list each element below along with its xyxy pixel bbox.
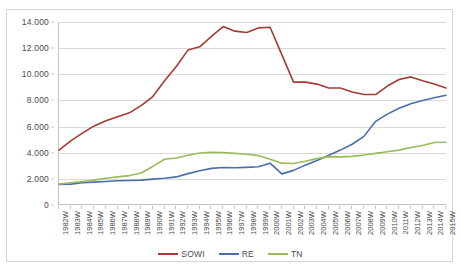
y-tick-label: 8.000 bbox=[27, 95, 49, 105]
y-tick-mark bbox=[51, 126, 54, 127]
legend-item-re[interactable]: RE bbox=[219, 249, 254, 259]
x-tick-label: 1997W bbox=[237, 211, 246, 235]
x-tick-label: 1987W bbox=[120, 211, 129, 235]
y-tick-label: 4.000 bbox=[27, 148, 49, 158]
y-axis: 14.00012.00010.0008.0006.0004.0002.0000 bbox=[7, 22, 54, 205]
y-tick-label: 12.000 bbox=[22, 43, 49, 53]
x-tick-label: 2004W bbox=[319, 211, 328, 235]
x-tick-label: 1995W bbox=[214, 211, 223, 235]
x-tick-label: 2011W bbox=[401, 211, 410, 235]
x-tick-mark bbox=[81, 206, 82, 209]
x-tick-label: 1983W bbox=[73, 211, 82, 235]
x-tick-label: 2014W bbox=[436, 211, 445, 235]
x-tick-mark bbox=[257, 206, 258, 209]
x-tick-label: 1996W bbox=[225, 211, 234, 235]
x-tick-mark bbox=[199, 206, 200, 209]
series-line-re bbox=[59, 95, 446, 184]
chart-legend: SOWIRETN bbox=[7, 249, 454, 259]
x-tick-label: 1993W bbox=[190, 211, 199, 235]
series-line-sowi bbox=[59, 27, 446, 151]
x-tick-mark bbox=[175, 206, 176, 209]
x-tick-mark bbox=[398, 206, 399, 209]
series-line-tn bbox=[59, 142, 446, 184]
x-tick-label: 1990W bbox=[155, 211, 164, 235]
y-tick-mark bbox=[51, 74, 54, 75]
x-tick-label: 1998W bbox=[249, 211, 258, 235]
x-tick-label: 2001W bbox=[284, 211, 293, 235]
legend-item-sowi[interactable]: SOWI bbox=[158, 249, 204, 259]
x-tick-label: 2009W bbox=[378, 211, 387, 235]
x-tick-label: 2002W bbox=[296, 211, 305, 235]
x-tick-mark bbox=[117, 206, 118, 209]
x-tick-label: 2008W bbox=[366, 211, 375, 235]
legend-swatch-icon bbox=[158, 253, 178, 255]
x-tick-mark bbox=[422, 206, 423, 209]
x-tick-mark bbox=[316, 206, 317, 209]
x-tick-mark bbox=[222, 206, 223, 209]
x-tick-label: 1992W bbox=[178, 211, 187, 235]
y-tick-mark bbox=[51, 205, 54, 206]
y-tick-mark bbox=[51, 48, 54, 49]
x-tick-label: 1991W bbox=[167, 211, 176, 235]
x-tick-mark bbox=[128, 206, 129, 209]
x-tick-label: 2015W bbox=[448, 211, 457, 235]
x-tick-mark bbox=[375, 206, 376, 209]
series-layer bbox=[59, 22, 447, 205]
x-tick-mark bbox=[152, 206, 153, 209]
x-tick-mark bbox=[386, 206, 387, 209]
x-tick-mark bbox=[410, 206, 411, 209]
x-tick-mark bbox=[58, 206, 59, 209]
x-tick-mark bbox=[246, 206, 247, 209]
x-tick-mark bbox=[328, 206, 329, 209]
x-tick-label: 1988W bbox=[132, 211, 141, 235]
x-tick-mark bbox=[70, 206, 71, 209]
x-tick-label: 2003W bbox=[307, 211, 316, 235]
legend-label: RE bbox=[242, 249, 254, 259]
y-tick-mark bbox=[51, 22, 54, 23]
y-tick-label: 2.000 bbox=[27, 174, 49, 184]
legend-item-tn[interactable]: TN bbox=[268, 249, 303, 259]
x-tick-label: 2000W bbox=[272, 211, 281, 235]
x-tick-mark bbox=[210, 206, 211, 209]
y-tick-label: 6.000 bbox=[27, 122, 49, 132]
x-tick-label: 1985W bbox=[96, 211, 105, 235]
x-tick-mark bbox=[363, 206, 364, 209]
y-tick-mark bbox=[51, 152, 54, 153]
x-tick-label: 2010W bbox=[390, 211, 399, 235]
x-axis: 1982W1983W1984W1985W1986W1987W1988W1989W… bbox=[58, 206, 446, 252]
plot-area bbox=[58, 22, 446, 205]
x-tick-mark bbox=[140, 206, 141, 209]
legend-label: SOWI bbox=[181, 249, 204, 259]
x-tick-mark bbox=[187, 206, 188, 209]
x-tick-label: 2005W bbox=[331, 211, 340, 235]
x-tick-mark bbox=[234, 206, 235, 209]
x-tick-label: 2013W bbox=[425, 211, 434, 235]
x-tick-label: 2012W bbox=[413, 211, 422, 235]
x-tick-label: 1989W bbox=[143, 211, 152, 235]
chart-container: 14.00012.00010.0008.0006.0004.0002.0000 … bbox=[6, 9, 453, 262]
y-tick-label: 0 bbox=[44, 200, 49, 210]
x-tick-mark bbox=[93, 206, 94, 209]
y-tick-mark bbox=[51, 178, 54, 179]
legend-swatch-icon bbox=[219, 253, 239, 255]
legend-label: TN bbox=[291, 249, 303, 259]
x-tick-mark bbox=[105, 206, 106, 209]
x-tick-mark bbox=[445, 206, 446, 209]
x-tick-label: 2006W bbox=[343, 211, 352, 235]
y-tick-mark bbox=[51, 100, 54, 101]
y-tick-label: 10.000 bbox=[22, 69, 49, 79]
x-tick-label: 1982W bbox=[61, 211, 70, 235]
chart-plot-wrapper: 14.00012.00010.0008.0006.0004.0002.0000 … bbox=[7, 10, 454, 263]
x-tick-label: 1999W bbox=[261, 211, 270, 235]
y-tick-label: 14.000 bbox=[22, 17, 49, 27]
x-tick-mark bbox=[433, 206, 434, 209]
x-tick-mark bbox=[304, 206, 305, 209]
x-tick-label: 1986W bbox=[108, 211, 117, 235]
x-tick-mark bbox=[339, 206, 340, 209]
x-tick-mark bbox=[281, 206, 282, 209]
x-tick-label: 2007W bbox=[354, 211, 363, 235]
x-tick-mark bbox=[293, 206, 294, 209]
x-tick-mark bbox=[164, 206, 165, 209]
x-tick-mark bbox=[351, 206, 352, 209]
x-tick-label: 1984W bbox=[85, 211, 94, 235]
